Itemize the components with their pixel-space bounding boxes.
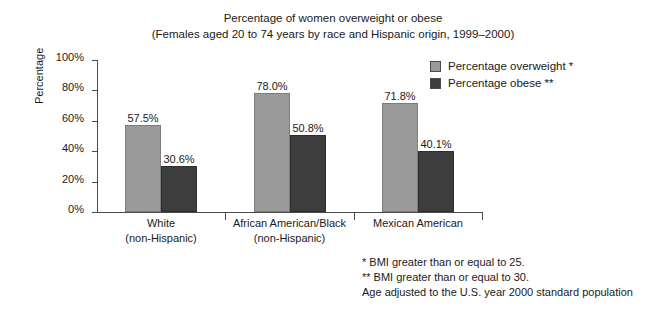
x-category-label-white: White (non-Hispanic) [97, 216, 225, 246]
bar-value-white-obese: 30.6% [163, 153, 194, 165]
bar-value-african-american-overweight: 78.0% [256, 80, 287, 92]
bar-value-mexican-american-obese: 40.1% [420, 138, 451, 150]
bar-mexican-american-obese: 40.1% [418, 151, 454, 212]
x-category-label-african-american: African American/Black (non-Hispanic) [225, 216, 354, 246]
group-separator-3 [482, 213, 483, 220]
bar-white-obese: 30.6% [161, 166, 197, 213]
bar-mexican-american-overweight: 71.8% [382, 103, 418, 212]
bar-value-white-overweight: 57.5% [127, 112, 158, 124]
x-category-label-african-american-line-2: (non-Hispanic) [225, 231, 354, 246]
chart-footnotes: * BMI greater than or equal to 25. ** BM… [362, 255, 633, 300]
chart-figure: Percentage of women overweight or obese … [0, 0, 666, 314]
chart-title-block: Percentage of women overweight or obese … [0, 10, 666, 42]
legend-item-obese: Percentage obese ** [430, 75, 573, 92]
bar-african-american-obese: 50.8% [290, 135, 326, 212]
bar-african-american-overweight: 78.0% [254, 93, 290, 212]
footnote-age-adjusted: Age adjusted to the U.S. year 2000 stand… [362, 285, 633, 300]
y-tick-label-100: 100% [56, 52, 84, 63]
x-category-label-african-american-line-1: African American/Black [225, 216, 354, 231]
y-axis-line [97, 60, 98, 213]
y-tick-100: 100% [92, 60, 97, 61]
legend-label-obese: Percentage obese ** [448, 77, 554, 90]
x-category-label-mexican-american-line-1: Mexican American [354, 216, 482, 231]
x-category-label-mexican-american: Mexican American [354, 216, 482, 231]
bar-white-overweight: 57.5% [125, 125, 161, 212]
y-tick-label-0: 0% [68, 204, 84, 215]
chart-subtitle: (Females aged 20 to 74 years by race and… [0, 26, 666, 42]
legend-item-overweight: Percentage overweight * [430, 58, 573, 75]
y-tick-60: 60% [92, 121, 97, 122]
plot-area: 0% 20% 40% 60% 80% 100% 57.5% 30.6% 78. [97, 60, 483, 212]
legend-swatch-overweight-icon [430, 61, 441, 72]
legend-swatch-obese-icon [430, 78, 441, 89]
y-tick-label-60: 60% [62, 113, 84, 124]
legend-label-overweight: Percentage overweight * [448, 60, 573, 73]
y-tick-0: 0% [92, 212, 97, 213]
y-tick-20: 20% [92, 182, 97, 183]
y-tick-label-80: 80% [62, 82, 84, 93]
y-tick-40: 40% [92, 151, 97, 152]
y-axis-label: Percentage [33, 48, 45, 104]
footnote-bmi-30: ** BMI greater than or equal to 30. [362, 270, 633, 285]
x-axis-line [97, 212, 483, 213]
y-tick-80: 80% [92, 90, 97, 91]
x-category-label-white-line-2: (non-Hispanic) [97, 231, 225, 246]
bar-value-mexican-american-overweight: 71.8% [384, 90, 415, 102]
footnote-bmi-25: * BMI greater than or equal to 25. [362, 255, 633, 270]
y-tick-label-20: 20% [62, 174, 84, 185]
bar-value-african-american-obese: 50.8% [292, 122, 323, 134]
chart-legend: Percentage overweight * Percentage obese… [430, 58, 573, 92]
x-category-label-white-line-1: White [97, 216, 225, 231]
chart-title: Percentage of women overweight or obese [0, 10, 666, 26]
y-tick-label-40: 40% [62, 143, 84, 154]
